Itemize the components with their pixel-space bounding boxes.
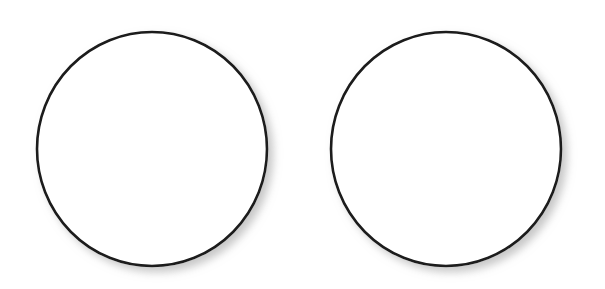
shapes-svg [0,0,605,289]
figure-canvas [0,0,605,289]
shape-group [37,32,561,266]
right-circle [331,32,561,266]
left-circle [37,32,267,266]
